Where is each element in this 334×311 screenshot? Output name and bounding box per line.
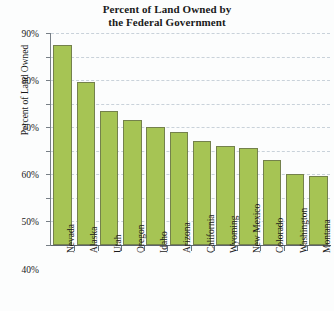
x-axis-label: Nevada bbox=[66, 224, 76, 253]
y-axis-tick: 0% bbox=[46, 245, 51, 246]
y-axis-tick-label: 50% bbox=[22, 217, 39, 227]
x-axis-label: Idaho bbox=[159, 231, 169, 253]
x-axis-label: Utah bbox=[113, 235, 123, 253]
bars-group bbox=[51, 33, 330, 245]
bar bbox=[100, 111, 119, 245]
bar bbox=[53, 45, 72, 245]
x-axis-label: California bbox=[206, 214, 216, 253]
x-axis-label: Montana bbox=[322, 219, 332, 253]
x-axis-label: Colorado bbox=[275, 218, 285, 253]
x-axis-label: Wyoming bbox=[229, 216, 239, 253]
chart-title-line-2: the Federal Government bbox=[0, 16, 334, 29]
bar bbox=[77, 82, 96, 245]
bar bbox=[146, 127, 165, 245]
y-axis-tick-label: 40% bbox=[22, 265, 39, 275]
x-axis-label: Arizona bbox=[182, 222, 192, 253]
y-axis-tick-label: 60% bbox=[22, 170, 39, 180]
plot-area: 0%10%20%30%40%50%60%70%80%90% bbox=[51, 33, 330, 245]
y-axis-tick-label: 80% bbox=[22, 76, 39, 86]
y-axis-tick-label: 70% bbox=[22, 123, 39, 133]
chart-title-line-1: Percent of Land Owned by bbox=[0, 3, 334, 16]
x-axis-label: Oregon bbox=[136, 225, 146, 254]
x-axis-label: New Mexico bbox=[252, 204, 262, 253]
y-axis-tick-label: 90% bbox=[22, 29, 39, 39]
x-axis-label: Alaska bbox=[89, 227, 99, 253]
bar-chart-figure: Percent of Land Owned by the Federal Gov… bbox=[0, 0, 334, 311]
x-axis-label: Washington bbox=[299, 208, 309, 253]
chart-title: Percent of Land Owned by the Federal Gov… bbox=[0, 3, 334, 28]
